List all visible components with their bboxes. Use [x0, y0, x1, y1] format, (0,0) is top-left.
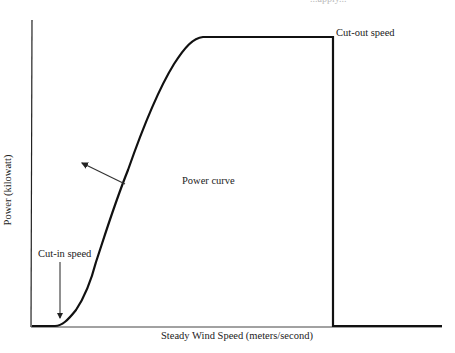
x-axis-label: Steady Wind Speed (meters/second) [161, 330, 313, 341]
power-curve-arrow [82, 163, 125, 184]
power-curve-label: Power curve [182, 175, 235, 186]
power-curve-line [32, 37, 442, 326]
y-axis-label: Power (kilowatt) [2, 155, 13, 226]
cut-in-speed-label: Cut-in speed [38, 248, 91, 259]
y-axis [31, 20, 32, 327]
cut-out-speed-label: Cut-out speed [336, 27, 395, 38]
